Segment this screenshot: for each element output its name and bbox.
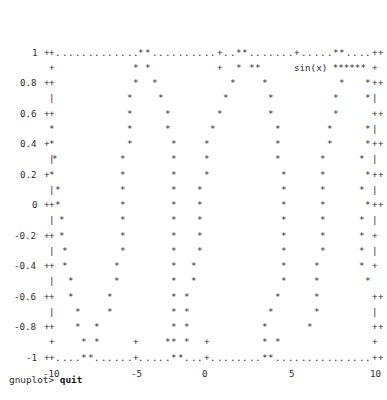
data-point-glyph: * (55, 197, 61, 212)
data-point-glyph: * (158, 90, 164, 105)
axis-dot-glyph: . (178, 45, 184, 60)
data-point-glyph: * (197, 212, 203, 227)
axis-border-glyph: | (49, 304, 55, 319)
prompt-label: gnuplot> (9, 374, 60, 385)
data-point-glyph: * (281, 273, 287, 288)
data-point-glyph: * (197, 243, 203, 258)
axis-dot-glyph: . (320, 350, 326, 365)
axis-border-glyph: + (378, 289, 384, 304)
y-axis-tick-label: 0.2 (20, 167, 37, 182)
data-point-glyph: * (262, 350, 268, 365)
data-point-glyph: * (314, 273, 320, 288)
data-point-glyph: * (268, 106, 274, 121)
axis-border-glyph: | (372, 151, 378, 166)
data-point-glyph: * (262, 334, 268, 349)
data-point-glyph: * (359, 228, 365, 243)
y-axis-tick-label: -0.6 (14, 289, 36, 304)
data-point-glyph: * (339, 45, 345, 60)
y-axis-tick-label: -0.4 (14, 258, 36, 273)
x-axis-tick-label: 0 (202, 366, 208, 381)
plot-row: |*******| (6, 182, 387, 197)
data-point-glyph: * (320, 197, 326, 212)
data-point-glyph: * (365, 197, 371, 212)
axis-dot-glyph: . (281, 45, 287, 60)
data-point-glyph: * (184, 304, 190, 319)
data-point-glyph: * (333, 106, 339, 121)
axis-border-glyph: + (378, 45, 384, 60)
axis-dot-glyph: . (365, 350, 371, 365)
plot-row: |******| (6, 90, 387, 105)
data-point-glyph: * (68, 273, 74, 288)
data-point-glyph: * (171, 273, 177, 288)
data-point-glyph: * (120, 182, 126, 197)
data-point-glyph: * (275, 121, 281, 136)
data-point-glyph: * (184, 289, 190, 304)
axis-dot-glyph: . (158, 45, 164, 60)
axis-dot-glyph: . (127, 350, 133, 365)
axis-dot-glyph: . (275, 45, 281, 60)
plot-row: |*******| (6, 151, 387, 166)
data-point-glyph: * (178, 350, 184, 365)
axis-dot-glyph: . (339, 350, 345, 365)
axis-dot-glyph: . (152, 45, 158, 60)
axis-border-glyph: + (49, 289, 55, 304)
axis-border-glyph: + (378, 319, 384, 334)
data-point-glyph: * (204, 151, 210, 166)
axis-dot-glyph: . (301, 45, 307, 60)
axis-border-glyph: + (372, 334, 378, 349)
axis-border-glyph: + (49, 258, 55, 273)
data-point-glyph: * (314, 304, 320, 319)
data-point-glyph: * (359, 151, 365, 166)
data-point-glyph: * (88, 350, 94, 365)
axis-dot-glyph: . (294, 350, 300, 365)
data-point-glyph: * (281, 182, 287, 197)
plot-row: -0.4++*******+ (6, 258, 387, 273)
data-point-glyph: * (217, 106, 223, 121)
y-axis-tick-label: 1 (32, 45, 38, 60)
plot-row: -0.8++******++ (6, 319, 387, 334)
plot-row: *******| (6, 121, 387, 136)
data-point-glyph: * (165, 106, 171, 121)
axis-border-glyph: + (49, 334, 55, 349)
data-point-glyph: * (255, 60, 261, 75)
data-point-glyph: * (275, 136, 281, 151)
data-point-glyph: * (365, 90, 371, 105)
data-point-glyph: * (107, 304, 113, 319)
data-point-glyph: * (191, 258, 197, 273)
axis-dot-glyph: . (68, 45, 74, 60)
data-point-glyph: * (320, 151, 326, 166)
axis-dot-glyph: . (145, 350, 151, 365)
axis-dot-glyph: . (346, 350, 352, 365)
data-point-glyph: * (210, 121, 216, 136)
axis-border-glyph: + (49, 60, 55, 75)
plot-rows-container: 1++.............**..........+..**.......… (6, 40, 387, 381)
plot-row: |******| (6, 304, 387, 319)
data-point-glyph: * (262, 75, 268, 90)
data-point-glyph: * (127, 136, 133, 151)
plot-row: |*******| (6, 212, 387, 227)
axis-dot-glyph: . (120, 45, 126, 60)
data-point-glyph: * (236, 60, 242, 75)
axis-border-glyph: + (372, 258, 378, 273)
data-point-glyph: * (59, 212, 65, 227)
data-point-glyph: * (127, 121, 133, 136)
data-point-glyph: * (81, 350, 87, 365)
data-point-glyph: * (365, 75, 371, 90)
data-point-glyph: * (268, 90, 274, 105)
axis-border-glyph: + (49, 106, 55, 121)
gnuplot-ascii-plot: 1++.............**..........+..**.......… (0, 9, 387, 400)
data-point-glyph: * (138, 45, 144, 60)
axis-border-glyph: | (372, 304, 378, 319)
data-point-glyph: * (55, 182, 61, 197)
axis-dot-glyph: . (307, 45, 313, 60)
axis-dot-glyph: . (346, 45, 352, 60)
data-point-glyph: * (49, 136, 55, 151)
data-point-glyph: * (165, 121, 171, 136)
data-point-glyph: * (171, 197, 177, 212)
axis-dot-glyph: . (184, 350, 190, 365)
plot-row: 0.6++*****++ (6, 106, 387, 121)
command-prompt-line[interactable]: gnuplot> quit (9, 373, 82, 386)
y-axis-tick-label: 0.8 (20, 75, 37, 90)
axis-dot-glyph: . (191, 350, 197, 365)
axis-border-glyph: + (133, 334, 139, 349)
